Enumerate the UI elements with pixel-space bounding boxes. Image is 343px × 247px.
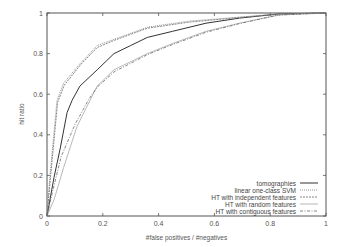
x-tick-label: 0.6: [210, 220, 220, 227]
x-axis-label: #false positives / #negatives: [146, 234, 228, 242]
legend-label-svm: linear one-class SVM: [235, 187, 296, 194]
legend-label-ht-contiguous: HT with contiguous features: [216, 208, 297, 216]
y-axis-label: hit ratio: [18, 103, 25, 125]
y-tick-label: 0.8: [33, 50, 43, 57]
x-tick-label: 1: [324, 220, 328, 227]
y-tick-label: 0: [39, 213, 43, 220]
x-tick-label: 0: [45, 220, 49, 227]
y-tick-label: 1: [39, 10, 43, 17]
y-tick-label: 0.4: [33, 131, 43, 138]
x-tick-label: 0.2: [98, 220, 108, 227]
x-tick-label: 0.4: [154, 220, 164, 227]
legend-label-ht-random: HT with random features: [225, 201, 297, 208]
y-tick-label: 0.2: [33, 172, 43, 179]
y-tick-label: 0.6: [33, 91, 43, 98]
roc-chart: 00.20.40.60.8100.20.40.60.81 #false posi…: [0, 0, 343, 247]
x-tick-label: 0.8: [265, 220, 275, 227]
